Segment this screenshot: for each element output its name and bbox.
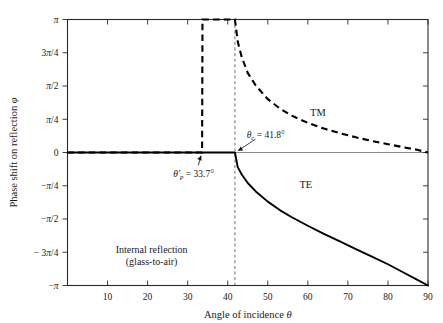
y-tick-label-8: −π — [48, 281, 58, 291]
brewster-internal-angle-label: θ′p = 33.7° — [173, 169, 214, 180]
x-tick-label-60: 60 — [303, 292, 313, 302]
x-axis-title: Angle of incidence θ — [204, 309, 292, 320]
phase-shift-on-reflection-chart: 102030405060708090π3π/4π/2π/40−π/4−π/2− … — [0, 0, 443, 323]
y-tick-label-6: −π/2 — [41, 214, 59, 224]
x-tick-label-90: 90 — [423, 292, 433, 302]
curve-label-tm: TM — [310, 107, 326, 118]
x-tick-label-10: 10 — [103, 292, 113, 302]
x-tick-label-30: 30 — [183, 292, 193, 302]
y-tick-label-3: π/4 — [46, 115, 58, 125]
y-tick-label-5: −π/4 — [41, 181, 59, 191]
reflection-condition-note-line1: Internal reflection — [116, 244, 188, 255]
y-tick-label-1: 3π/4 — [42, 48, 59, 58]
critical-angle-label: θc = 41.8° — [247, 130, 285, 141]
x-tick-label-20: 20 — [143, 292, 153, 302]
y-tick-label-0: π — [54, 15, 59, 25]
curve-te — [68, 153, 429, 286]
y-tick-label-2: π/2 — [46, 81, 58, 91]
x-tick-label-40: 40 — [223, 292, 233, 302]
reflection-condition-note-line2: (glass-to-air) — [126, 256, 178, 268]
x-tick-label-80: 80 — [383, 292, 393, 302]
y-axis-title: Phase shift on reflection φ — [8, 97, 19, 207]
x-tick-label-70: 70 — [343, 292, 353, 302]
critical-angle-arrowhead — [238, 146, 243, 150]
y-tick-label-7: − 3π/4 — [34, 248, 59, 258]
x-tick-label-50: 50 — [263, 292, 273, 302]
curve-label-te: TE — [299, 179, 312, 190]
y-tick-label-4: 0 — [54, 148, 59, 158]
brewster-internal-angle-arrowhead — [197, 156, 201, 161]
chart-canvas: 102030405060708090π3π/4π/2π/40−π/4−π/2− … — [0, 0, 443, 323]
